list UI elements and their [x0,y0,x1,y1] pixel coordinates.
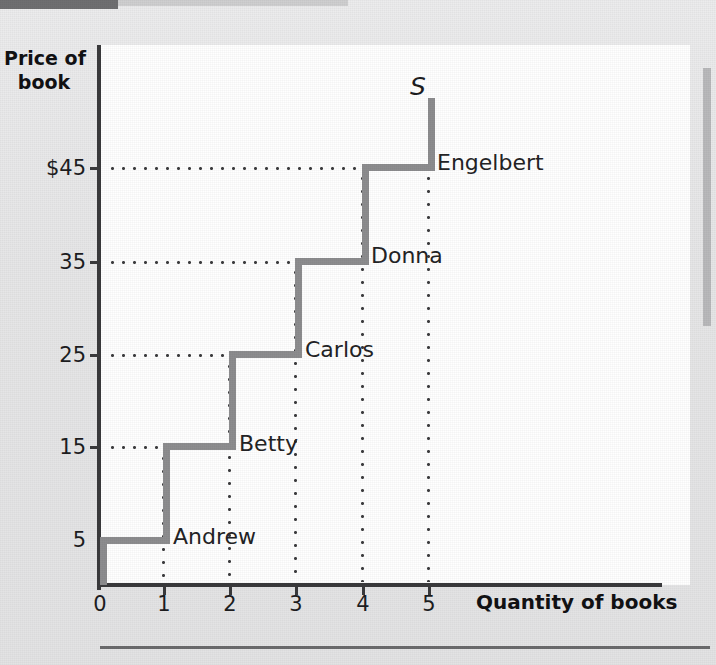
x-tick-label-5: 5 [409,592,449,616]
page-top-band [0,0,118,9]
y-axis-title-line2: book [4,70,84,94]
y-tick-15 [90,446,101,449]
figure-page: Price of book Quantity of books $45 35 2… [0,0,716,665]
y-axis-title: Price of book [4,46,92,95]
page-top-band-secondary [118,0,348,6]
step-label-andrew: Andrew [173,524,256,549]
y-tick-label-25: 25 [0,343,86,367]
y-tick-label-45: $45 [0,156,86,180]
y-axis-title-line1: Price of [4,47,86,69]
page-bottom-rule [100,646,710,649]
guide-v-5 [427,172,430,582]
page-right-margin-bar [703,68,711,326]
guide-h-25 [107,354,233,357]
step-label-carlos: Carlos [305,337,374,362]
step-riser-final [428,98,435,171]
step-left-stub [100,537,107,585]
y-tick-label-15: 15 [0,435,86,459]
step-tread-donna [295,258,369,265]
step-riser-andrew-betty [163,443,170,544]
y-axis-line [97,45,101,590]
step-label-engelbert: Engelbert [437,150,544,175]
step-tread-engelbert [362,164,435,171]
x-axis-line [97,583,662,587]
guide-h-35 [107,261,299,264]
step-tread-andrew [100,537,170,544]
step-riser-carlos-donna [295,258,302,358]
step-riser-donna-engelbert [362,164,369,265]
x-tick-label-3: 3 [276,592,316,616]
step-riser-betty-carlos [229,351,236,450]
step-label-betty: Betty [239,431,298,456]
y-tick-45 [90,167,101,170]
step-tread-carlos [229,351,302,358]
step-tread-betty [163,443,236,450]
step-label-donna: Donna [371,243,443,268]
y-tick-label-5: 5 [0,528,86,552]
guide-h-15 [107,446,167,449]
plot-area [100,45,690,585]
y-tick-35 [90,261,101,264]
y-tick-label-35: 35 [0,250,86,274]
x-tick-label-2: 2 [210,592,250,616]
x-tick-label-0: 0 [80,592,120,616]
supply-curve-label: S [410,72,426,101]
guide-h-45 [107,167,365,170]
y-tick-25 [90,354,101,357]
x-tick-label-1: 1 [144,592,184,616]
x-axis-title: Quantity of books [476,590,677,614]
x-tick-label-4: 4 [343,592,383,616]
